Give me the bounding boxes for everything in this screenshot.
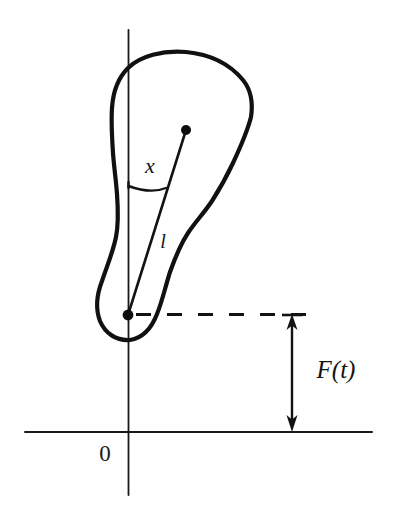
angle-label: x — [144, 153, 155, 178]
forcing-function-label: F(t) — [316, 356, 356, 384]
center-of-mass-point — [181, 125, 191, 135]
pendulum-figure: x l F(t) 0 — [0, 0, 393, 510]
background — [0, 0, 393, 510]
length-label: l — [160, 230, 166, 252]
diagram-canvas: x l F(t) 0 — [0, 0, 393, 510]
origin-label: 0 — [99, 441, 111, 466]
pivot-point — [123, 310, 134, 321]
